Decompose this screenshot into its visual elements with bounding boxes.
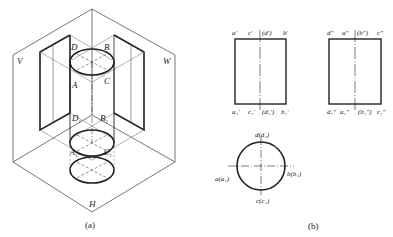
projection-planes-frame: [13, 9, 175, 212]
v-plane-projection: [40, 35, 70, 130]
front-top-label-d: (d'): [262, 29, 272, 37]
point-label-c: C: [104, 76, 111, 86]
front-bottom-label-b1: b₁': [281, 108, 289, 116]
point-label-d1: D1: [71, 113, 81, 124]
front-view: a' c' (d') b' a₁' c₁' (d₁') b₁': [232, 29, 289, 116]
front-top-label-c: c': [248, 29, 253, 37]
point-label-b: B: [104, 42, 110, 52]
plane-label-w: W: [163, 56, 172, 66]
front-top-label-a: a': [232, 29, 238, 37]
front-top-label-b: b': [283, 29, 289, 37]
side-top-label-d: d": [327, 29, 334, 37]
side-bottom-label-c1: c₁": [377, 108, 386, 116]
side-bottom-label-a1: a₁": [340, 108, 349, 116]
front-bottom-label-d1: (d₁'): [262, 108, 275, 116]
top-label-b: b(b₁): [287, 170, 302, 178]
point-label-d: D: [70, 42, 78, 52]
figure-b-orthographic: a' c' (d') b' a₁' c₁' (d₁') b₁' d" a" (b…: [215, 29, 386, 231]
front-bottom-label-a1: a₁': [232, 108, 240, 116]
figure-a-isometric: V W H D B A C D1 B1 A1 C1 (a): [13, 9, 175, 230]
top-label-d: d(d₁): [255, 131, 270, 139]
side-bottom-label-b1: (b₁"): [358, 108, 372, 116]
front-bottom-label-c1: c₁': [248, 108, 256, 116]
plane-label-h: H: [88, 199, 96, 209]
point-label-a: A: [71, 80, 78, 90]
caption-b: (b): [308, 221, 319, 231]
cylinder-projection-diagram: V W H D B A C D1 B1 A1 C1 (a) a' c' (d')…: [0, 0, 393, 237]
top-view: d(d₁) a(a₁) b(b₁) c(c₁): [215, 131, 302, 205]
point-label-b1: B1: [100, 113, 108, 124]
caption-a: (a): [85, 220, 95, 230]
side-bottom-label-d1: d₁": [327, 108, 336, 116]
top-label-a: a(a₁): [215, 175, 230, 183]
side-top-label-a: a": [342, 29, 349, 37]
side-top-label-b: (b"): [357, 29, 369, 37]
plane-label-v: V: [17, 56, 24, 66]
top-label-c: c(c₁): [256, 197, 270, 205]
point-label-a1: A1: [69, 148, 77, 158]
w-plane-projection: [114, 35, 144, 130]
side-top-label-c: c": [377, 29, 383, 37]
side-view: d" a" (b") c" d₁" a₁" (b₁") c₁": [327, 29, 386, 116]
